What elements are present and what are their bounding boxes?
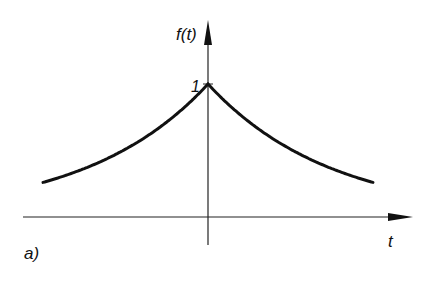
x-axis-arrow-icon xyxy=(388,213,413,221)
x-axis-label: t xyxy=(388,233,393,250)
panel-label: a) xyxy=(24,245,39,262)
plot xyxy=(0,0,435,287)
y-axis-label: f(t) xyxy=(176,26,197,43)
peak-label: 1 xyxy=(191,79,200,95)
figure: f(t) 1 t a) xyxy=(0,0,435,287)
y-axis-arrow-icon xyxy=(204,20,212,45)
